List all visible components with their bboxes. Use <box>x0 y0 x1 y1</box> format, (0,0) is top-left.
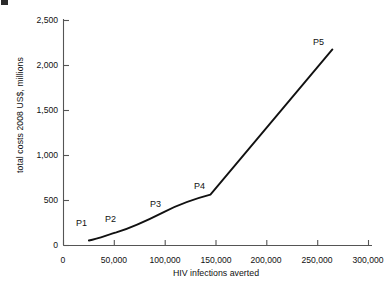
x-tick-marks <box>64 240 369 246</box>
point-label-p5: P5 <box>313 37 324 47</box>
point-label-p2: P2 <box>105 214 116 224</box>
point-label-p3: P3 <box>150 199 161 209</box>
point-label-p4: P4 <box>194 181 205 191</box>
y-tick-marks <box>64 21 70 246</box>
x-axis-title: HIV infections averted <box>63 268 369 278</box>
point-label-p1: P1 <box>76 218 87 228</box>
chart-figure: total costs 2008 US$, millions 2,500 2,0… <box>0 0 390 291</box>
plot-area <box>0 0 390 291</box>
cost-curve <box>89 49 333 240</box>
